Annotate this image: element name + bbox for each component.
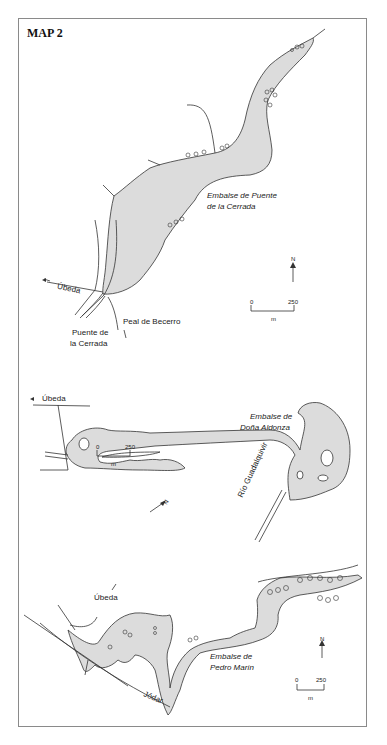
reservoir-label-3a: Embalse de xyxy=(210,652,252,662)
scale-unit-3: m xyxy=(308,693,313,703)
scale-end-2: 250 xyxy=(125,442,135,452)
scale-unit-1: m xyxy=(271,314,276,324)
map-title: MAP 2 xyxy=(27,26,63,41)
island xyxy=(102,452,160,457)
place-ubeda-2: Úbeda xyxy=(42,394,66,404)
map-drawings xyxy=(0,0,387,745)
scale-unit-2: m xyxy=(111,459,116,469)
place-bridge-1: Puente de xyxy=(72,328,108,338)
scale-start-3: 0 xyxy=(295,675,298,685)
scale-start-1: 0 xyxy=(250,297,253,307)
island xyxy=(79,438,89,450)
island xyxy=(318,475,328,481)
scale-end-3: 250 xyxy=(316,675,326,685)
reservoir-label-2b: Doña Aldonza xyxy=(240,423,290,433)
reservoir-label-3b: Pedro Marín xyxy=(210,663,254,673)
reservoir-dona-aldonza xyxy=(66,402,350,500)
reservoir-label-1a: Embalse de Puente xyxy=(207,191,277,201)
place-peal-de-becerro: Peal de Becerro xyxy=(123,317,180,327)
reservoir-label-2a: Embalse de xyxy=(250,412,292,422)
place-ubeda-3: Úbeda xyxy=(94,593,118,603)
island xyxy=(297,471,303,479)
scale-start-2: 0 xyxy=(96,442,99,452)
reservoir-puente-de-la-cerrada xyxy=(103,38,314,294)
north-label-3: N xyxy=(320,634,324,644)
reservoir-label-1b: de la Cerrada xyxy=(207,202,255,212)
island xyxy=(321,450,333,466)
north-label-1: N xyxy=(291,254,295,264)
place-bridge-2: la Cerrada xyxy=(70,339,107,349)
scale-end-1: 250 xyxy=(288,297,298,307)
